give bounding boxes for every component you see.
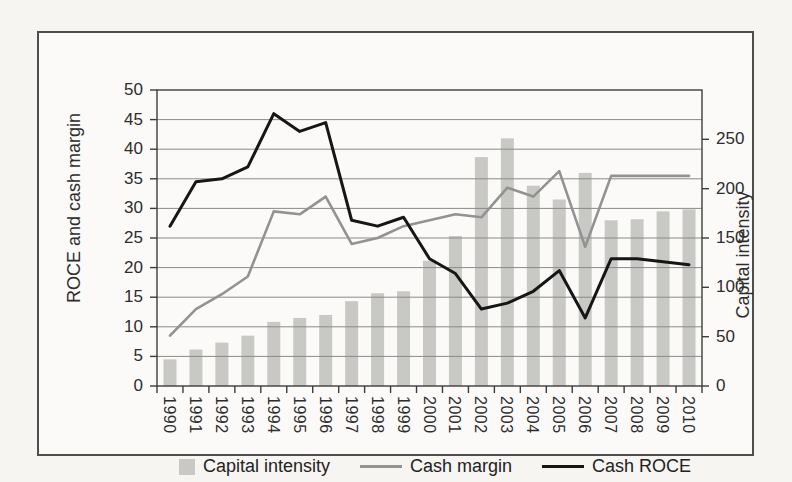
bar-2007 [605,220,618,386]
scanned-chart-page: { "figure": { "legend": [ {"label": "Cap… [0,0,792,482]
x-tick-label-2003: 2003 [497,396,515,434]
left-axis-label-15: 15 [95,288,143,306]
bar-1996 [319,315,332,386]
bar-2000 [423,261,436,386]
left-axis-label-30: 30 [95,199,143,217]
legend-item-capital-intensity: Capital intensity [179,456,330,477]
chart-figure-border: 0510152025303540455005010015020025019901… [37,31,754,456]
x-tick-label-1995: 1995 [290,396,308,434]
bar-1994 [267,322,280,386]
x-tick-label-1993: 1993 [238,396,256,434]
bar-2008 [631,219,644,386]
left-axis-label-5: 5 [95,347,143,365]
bar-1998 [371,293,384,386]
bar-1997 [345,301,358,386]
x-tick-label-2009: 2009 [653,396,671,434]
legend-label: Cash margin [410,456,512,477]
left-axis-label-50: 50 [95,81,143,99]
combo-chart-plot [134,73,719,398]
left-axis-label-35: 35 [95,170,143,188]
bar-2003 [501,138,514,386]
legend-label: Cash ROCE [592,456,691,477]
x-tick-label-2000: 2000 [420,396,438,434]
bar-2001 [449,236,462,386]
bar-1995 [293,318,306,386]
bar-2006 [579,173,592,386]
x-tick-label-2004: 2004 [523,396,541,434]
bar-1991 [189,349,202,386]
x-tick-label-1991: 1991 [186,396,204,434]
left-axis-label-45: 45 [95,111,143,129]
chart-legend: Capital intensity Cash margin Cash ROCE [39,456,792,477]
left-axis-label-25: 25 [95,229,143,247]
gray-line-swatch-icon [360,465,402,468]
bar-1993 [241,336,254,386]
bar-1999 [397,291,410,386]
legend-label: Capital intensity [203,456,330,477]
left-axis-label-0: 0 [95,377,143,395]
bar-1990 [163,359,176,386]
x-tick-label-1997: 1997 [342,396,360,434]
bar-2002 [475,157,488,386]
left-axis-title: ROCE and cash margin [64,68,84,348]
x-tick-label-1990: 1990 [160,396,178,434]
x-tick-label-2010: 2010 [679,396,697,434]
x-tick-label-1992: 1992 [212,396,230,434]
right-axis-title: Capital intensity [733,115,753,395]
legend-item-cash-roce: Cash ROCE [542,456,691,477]
x-tick-label-2001: 2001 [445,396,463,434]
x-tick-label-2007: 2007 [601,396,619,434]
left-axis-label-20: 20 [95,259,143,277]
legend-item-cash-margin: Cash margin [360,456,512,477]
x-tick-label-1994: 1994 [264,396,282,434]
bar-2005 [553,200,566,386]
bar-swatch-icon [179,459,195,475]
x-tick-label-2008: 2008 [627,396,645,434]
x-tick-label-1999: 1999 [394,396,412,434]
x-tick-label-2002: 2002 [471,396,489,434]
bar-1992 [215,343,228,386]
x-tick-label-1996: 1996 [316,396,334,434]
x-tick-label-1998: 1998 [368,396,386,434]
left-axis-label-10: 10 [95,318,143,336]
black-line-swatch-icon [542,465,584,468]
x-tick-label-2006: 2006 [575,396,593,434]
x-tick-label-2005: 2005 [549,396,567,434]
left-axis-label-40: 40 [95,140,143,158]
